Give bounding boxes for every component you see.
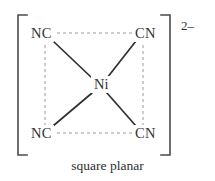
right-bracket <box>161 15 170 155</box>
square-planar-complex-figure: NC CN NC CN Ni 2– square planar <box>0 0 215 181</box>
bond-top-left <box>53 41 92 78</box>
bond-top-right <box>107 41 136 78</box>
metal-center-label: Ni <box>91 76 112 93</box>
bond-bottom-right <box>107 93 136 126</box>
ligand-label-bottom-left: NC <box>29 125 54 142</box>
ligand-label-bottom-right: CN <box>133 125 158 142</box>
left-bracket <box>18 15 27 155</box>
ion-charge-label: 2– <box>181 19 194 32</box>
bond-bottom-left <box>53 93 92 126</box>
ligand-label-top-right: CN <box>133 25 158 42</box>
ligand-label-top-left: NC <box>29 25 54 42</box>
figure-caption: square planar <box>0 159 215 174</box>
